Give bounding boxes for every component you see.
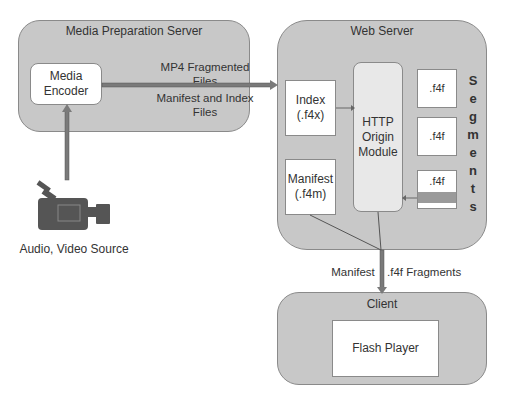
segments-letter: S xyxy=(466,72,480,90)
manifest-line2: (.f4m) xyxy=(295,187,326,202)
http-origin-module-box: HTTP Origin Module xyxy=(353,62,403,212)
origin-line1: HTTP xyxy=(362,115,393,130)
segments-letter: g xyxy=(466,108,480,126)
arrow-label-manifest-line2: Files xyxy=(150,105,260,119)
segment-box-2: .f4f xyxy=(417,117,457,156)
segment-2-label: .f4f xyxy=(429,129,444,144)
flash-player-label: Flash Player xyxy=(352,341,419,356)
arrow-label-mp4-line2: Files xyxy=(150,74,260,88)
manifest-line1: Manifest xyxy=(288,172,333,187)
index-line2: (.f4x) xyxy=(297,108,324,123)
segment-3-label: .f4f xyxy=(429,174,444,189)
segments-label: S e g m e n t s xyxy=(466,72,480,216)
media-encoder-box: Media Encoder xyxy=(30,63,102,105)
flash-player-box: Flash Player xyxy=(332,320,439,377)
segment-box-3: .f4f xyxy=(417,170,457,209)
media-encoder-line2: Encoder xyxy=(44,84,89,99)
segments-letter: t xyxy=(466,180,480,198)
arrow-label-mp4: MP4 Fragmented Files xyxy=(150,60,260,88)
index-box: Index (.f4x) xyxy=(285,80,336,136)
video-camera-icon xyxy=(34,180,116,236)
segment-box-1: .f4f xyxy=(417,69,457,108)
manifest-box: Manifest (.f4m) xyxy=(285,159,336,215)
arrow-label-mp4-line1: MP4 Fragmented xyxy=(150,60,260,74)
web-server-title: Web Server xyxy=(277,24,487,38)
segments-letter: e xyxy=(466,144,480,162)
transfer-label-manifest: Manifest xyxy=(330,265,376,279)
origin-line3: Module xyxy=(358,145,397,160)
transfer-label-fragments: .f4f Fragments xyxy=(387,265,467,279)
segment-1-label: .f4f xyxy=(429,81,444,96)
segments-letter: s xyxy=(466,198,480,216)
media-preparation-server-title: Media Preparation Server xyxy=(18,24,250,38)
segment-highlight-bar xyxy=(418,192,456,203)
arrow-label-manifest-line1: Manifest and Index xyxy=(150,91,260,105)
arrow-label-manifest-index: Manifest and Index Files xyxy=(150,91,260,119)
segments-letter: n xyxy=(466,162,480,180)
media-encoder-line1: Media xyxy=(50,69,83,84)
source-label: Audio, Video Source xyxy=(14,242,134,256)
origin-line2: Origin xyxy=(362,130,394,145)
segments-letter: e xyxy=(466,90,480,108)
client-title: Client xyxy=(277,297,487,311)
index-line1: Index xyxy=(296,93,325,108)
segments-letter: m xyxy=(466,126,480,144)
